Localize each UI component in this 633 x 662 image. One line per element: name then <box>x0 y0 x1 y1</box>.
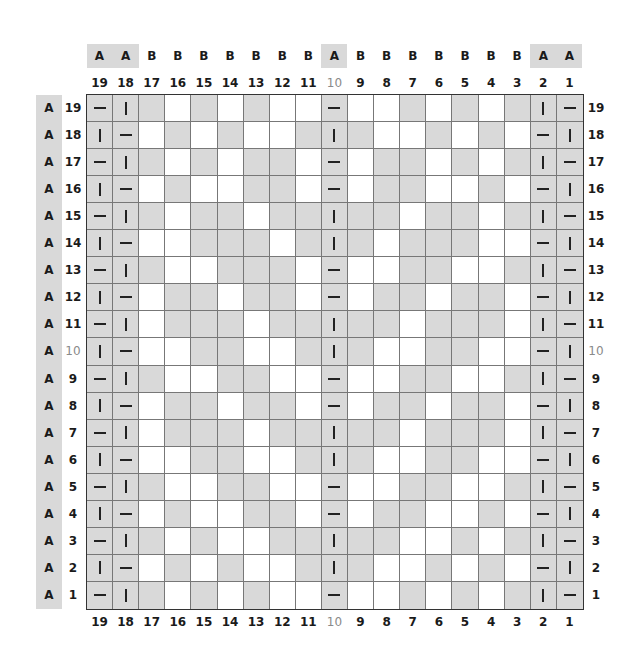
grid-cell-white <box>244 420 270 447</box>
grid-cell-filled <box>505 528 531 555</box>
grid-cell-filled <box>374 311 400 338</box>
row-number: 1 <box>584 582 608 609</box>
grid-cell-filled <box>296 338 322 365</box>
grid-cell-white <box>218 501 244 528</box>
grid-cell-white <box>374 474 400 501</box>
grid-cell-white <box>426 284 452 311</box>
grid-cell-filled <box>400 230 426 257</box>
row-number: 12 <box>584 284 608 311</box>
grid-cell-white <box>165 257 191 284</box>
grid-cell-white <box>218 149 244 176</box>
grid-cell-white <box>348 257 374 284</box>
grid-cell-horizontal-mark <box>322 95 348 122</box>
column-number: 2 <box>530 612 556 632</box>
grid-cell-filled <box>374 501 400 528</box>
grid-cell-filled <box>165 311 191 338</box>
grid-cell-filled <box>426 338 452 365</box>
grid-cell-white <box>296 284 322 311</box>
grid-cell-white <box>296 501 322 528</box>
row-group-label: A <box>36 176 62 203</box>
grid-cell-white <box>479 366 505 393</box>
grid-cell-vertical-mark <box>87 393 113 420</box>
grid-cell-white <box>139 501 165 528</box>
grid-cell-filled <box>218 203 244 230</box>
grid-cell-white <box>165 474 191 501</box>
grid-cell-white <box>452 257 478 284</box>
grid-cell-white <box>296 176 322 203</box>
grid-cell-white <box>191 122 217 149</box>
grid-cell-filled <box>452 230 478 257</box>
grid-cell-filled <box>165 284 191 311</box>
grid-cell-vertical-mark <box>113 257 139 284</box>
grid-cell-filled <box>348 311 374 338</box>
grid-cell-vertical-mark <box>322 447 348 474</box>
row-group-label: A <box>36 311 62 338</box>
grid-cell-filled <box>165 122 191 149</box>
row-number: 4 <box>62 501 84 528</box>
grid-cell-white <box>479 528 505 555</box>
row-number: 15 <box>62 203 84 230</box>
column-number: 19 <box>87 612 113 632</box>
grid-cell-filled <box>296 311 322 338</box>
column-number: 15 <box>191 73 217 93</box>
column-number: 10 <box>321 612 347 632</box>
grid-cell-white <box>270 95 296 122</box>
column-number: 5 <box>452 73 478 93</box>
grid-cell-white <box>296 582 322 609</box>
grid-cell-white <box>479 230 505 257</box>
grid-cell-white <box>426 393 452 420</box>
grid-cell-vertical-mark <box>113 95 139 122</box>
grid-cell-filled <box>218 447 244 474</box>
column-number: 18 <box>113 73 139 93</box>
grid-cell-filled <box>505 474 531 501</box>
grid-cell-white <box>270 474 296 501</box>
grid-cell-horizontal-mark <box>531 284 557 311</box>
grid-cell-horizontal-mark <box>87 257 113 284</box>
grid-cell-filled <box>348 420 374 447</box>
grid-cell-white <box>270 366 296 393</box>
grid-cell-filled <box>400 149 426 176</box>
grid-cell-filled <box>244 95 270 122</box>
grid-cell-filled <box>270 501 296 528</box>
grid-cell-white <box>348 501 374 528</box>
row-number: 2 <box>584 555 608 582</box>
grid-cell-white <box>479 474 505 501</box>
grid-cell-filled <box>165 393 191 420</box>
grid-cell-filled <box>218 366 244 393</box>
grid-cell-vertical-mark <box>87 176 113 203</box>
grid-cell-white <box>296 95 322 122</box>
row-group-label: A <box>36 528 62 555</box>
grid-cell-white <box>426 528 452 555</box>
row-number: 18 <box>62 122 84 149</box>
grid-cell-white <box>505 122 531 149</box>
grid-cell-white <box>270 447 296 474</box>
grid-cell-vertical-mark <box>87 230 113 257</box>
column-number: 9 <box>348 73 374 93</box>
row-number: 16 <box>584 176 608 203</box>
column-group-label: B <box>426 44 452 68</box>
grid-cell-filled <box>244 582 270 609</box>
grid-cell-filled <box>296 230 322 257</box>
grid-cell-filled <box>400 474 426 501</box>
row-number: 12 <box>62 284 84 311</box>
grid-cell-white <box>452 122 478 149</box>
grid-cell-filled <box>191 338 217 365</box>
row-number: 8 <box>62 393 84 420</box>
grid-cell-horizontal-mark <box>322 501 348 528</box>
grid-cell-horizontal-mark <box>557 257 583 284</box>
grid-cell-white <box>505 284 531 311</box>
grid-cell-white <box>452 555 478 582</box>
grid-cell-white <box>218 528 244 555</box>
grid-cell-filled <box>426 366 452 393</box>
grid-cell-vertical-mark <box>113 420 139 447</box>
grid-cell-filled <box>218 311 244 338</box>
grid-cell-white <box>505 230 531 257</box>
grid-cell-horizontal-mark <box>322 393 348 420</box>
grid-cell-horizontal-mark <box>322 582 348 609</box>
grid-cell-filled <box>191 420 217 447</box>
grid-cell-white <box>479 447 505 474</box>
grid-cell-filled <box>452 338 478 365</box>
row-number: 15 <box>584 203 608 230</box>
grid-cell-white <box>165 338 191 365</box>
grid-cell-filled <box>270 528 296 555</box>
